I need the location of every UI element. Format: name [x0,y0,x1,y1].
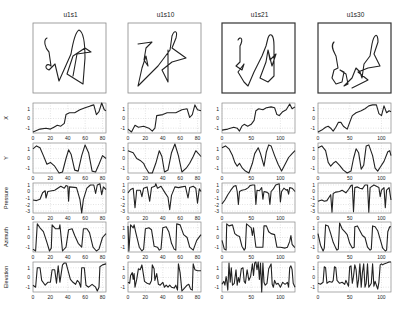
x-tick-label: 20 [143,175,149,181]
x-tick-label: 80 [100,135,106,141]
x-tick-label: 0 [221,215,224,221]
y-tick-label: 0 [216,188,219,194]
x-tick-label: 0 [32,135,35,141]
signature-panel [222,23,295,93]
y-tick-label: 0 [122,115,125,121]
subplot-pressure: 10-1-2-3050100 [311,182,391,221]
x-tick-label: 100 [276,294,285,300]
x-tick-label: 100 [276,175,285,181]
subplot-y: 10-1020406080Y [3,143,106,181]
y-tick-label: 0 [312,155,315,161]
y-tick-label: -1 [26,284,31,290]
x-tick-label: 80 [100,294,106,300]
y-tick-label: 1 [216,146,219,152]
x-tick-label: 20 [48,175,54,181]
y-tick-label: -2 [121,202,126,208]
y-tick-label: 1 [27,265,30,271]
signature-panel [318,23,391,93]
y-tick-label: -1 [215,195,220,201]
x-tick-label: 0 [221,294,224,300]
x-tick-label: 100 [377,254,386,260]
y-tick-label: 1 [216,106,219,112]
y-tick-label: 1 [312,265,315,271]
subplot-azimuth: 10-1050100 [215,222,295,260]
y-tick-label: -1 [121,125,126,131]
y-axis-label: X [3,116,9,120]
subplot-pressure: 10-1-2-3050100 [215,182,295,221]
subplot-x: 10-1050100 [311,103,391,141]
x-tick-label: 80 [100,215,106,221]
x-tick-label: 0 [221,135,224,141]
x-tick-label: 100 [377,294,386,300]
x-tick-label: 100 [377,215,386,221]
y-tick-label: 1 [312,106,315,112]
y-tick-label: 0 [312,115,315,121]
subplot-elevation: 10-1050100 [311,262,391,300]
x-tick-label: 50 [248,175,254,181]
y-tick-label: 0 [216,115,219,121]
y-tick-label: -1 [311,244,316,250]
x-tick-label: 0 [317,294,320,300]
y-tick-label: 0 [122,274,125,280]
y-tick-label: -2 [215,202,220,208]
y-tick-label: 1 [27,225,30,231]
x-tick-label: 80 [195,135,201,141]
y-tick-label: 1 [312,146,315,152]
y-tick-label: 0 [27,155,30,161]
x-tick-label: 20 [48,254,54,260]
x-tick-label: 0 [317,175,320,181]
y-tick-label: -1 [121,284,126,290]
y-axis-label: Azimuth [3,227,9,247]
y-tick-label: -3 [121,208,126,214]
y-tick-label: 0 [27,188,30,194]
x-tick-label: 40 [65,175,71,181]
y-tick-label: 0 [216,155,219,161]
x-tick-label: 50 [347,175,353,181]
y-tick-label: 1 [122,265,125,271]
x-tick-label: 0 [221,254,224,260]
y-tick-label: -1 [311,284,316,290]
y-tick-label: -3 [311,208,316,214]
x-tick-label: 0 [32,215,35,221]
x-tick-label: 60 [82,254,88,260]
x-tick-label: 40 [65,254,71,260]
x-tick-label: 50 [248,254,254,260]
x-tick-label: 20 [143,254,149,260]
x-tick-label: 50 [248,294,254,300]
subplot-pressure: 10-1-2-3020406080Pressure [3,182,106,221]
x-tick-label: 20 [48,294,54,300]
subplot-x: 10-1020406080 [121,103,201,141]
y-axis-label: Y [3,156,9,160]
y-tick-label: 1 [27,182,30,188]
y-tick-label: 1 [27,106,30,112]
x-tick-label: 60 [82,215,88,221]
x-tick-label: 40 [160,215,166,221]
x-tick-label: 50 [347,294,353,300]
x-tick-label: 20 [143,215,149,221]
x-tick-label: 40 [160,175,166,181]
x-tick-label: 80 [100,175,106,181]
x-tick-label: 60 [82,294,88,300]
y-axis-label: Elevation [3,266,9,289]
x-tick-label: 20 [48,215,54,221]
subplot-x: 10-1050100 [215,103,295,141]
y-tick-label: -1 [26,165,31,171]
y-tick-label: 0 [27,234,30,240]
y-tick-label: 1 [216,265,219,271]
y-tick-label: 0 [27,274,30,280]
x-tick-label: 0 [221,175,224,181]
column-title: u1s21 [251,11,269,18]
x-tick-label: 50 [248,215,254,221]
x-tick-label: 100 [276,135,285,141]
x-tick-label: 40 [160,294,166,300]
y-tick-label: -1 [26,125,31,131]
signature-panel [128,23,201,93]
y-tick-label: 1 [216,225,219,231]
x-tick-label: 40 [160,254,166,260]
figure: u1s110-1020406080X10-1020406080Y10-1-2-3… [0,0,404,309]
subplot-y: 10-1020406080 [121,143,201,181]
x-tick-label: 40 [65,215,71,221]
y-tick-label: -2 [311,202,316,208]
y-tick-label: -1 [121,165,126,171]
column-title: u1s30 [347,11,365,18]
